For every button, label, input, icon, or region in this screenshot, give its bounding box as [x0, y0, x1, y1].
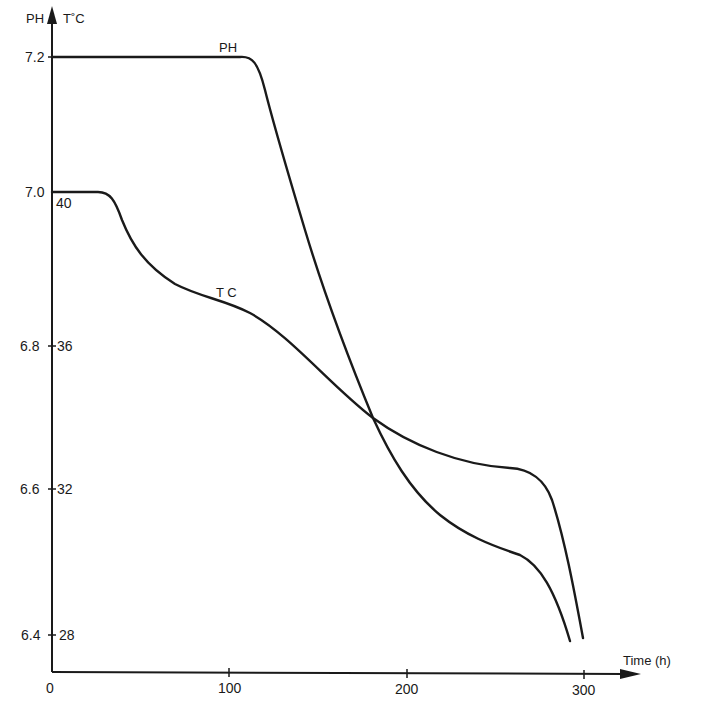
y-tick-temp-36: 36 — [57, 338, 73, 354]
x-tick-0: 0 — [46, 680, 54, 696]
y-tick-ph-6.6: 6.6 — [20, 481, 40, 497]
chart: PH T˚C Time (h) 7.2 7.0 40 6.8 36 6.6 32… — [0, 0, 705, 708]
temp-series-label: T C — [216, 285, 237, 300]
x-axis-arrow-icon — [620, 669, 641, 679]
ph-series-line — [52, 57, 570, 641]
y-axis-left-title: PH — [26, 11, 44, 26]
x-axis-title: Time (h) — [623, 653, 671, 668]
y-tick-ph-7.2: 7.2 — [25, 49, 45, 65]
x-tick-200: 200 — [395, 681, 419, 697]
y-tick-temp-40: 40 — [56, 195, 72, 211]
y-tick-ph-7.0: 7.0 — [25, 184, 45, 200]
x-axis — [52, 672, 625, 674]
ph-series-label: PH — [219, 40, 237, 55]
y-axis-right-title: T˚C — [63, 11, 85, 26]
y-tick-temp-28: 28 — [59, 627, 75, 643]
x-tick-100: 100 — [218, 680, 242, 696]
y-tick-temp-32: 32 — [57, 481, 73, 497]
temp-series-line — [52, 192, 583, 638]
y-axis-arrow-icon — [47, 6, 57, 24]
y-ticks: 7.2 7.0 40 6.8 36 6.6 32 6.4 28 — [20, 49, 75, 643]
y-tick-ph-6.8: 6.8 — [20, 338, 40, 354]
x-tick-300: 300 — [572, 682, 596, 698]
y-tick-ph-6.4: 6.4 — [21, 627, 41, 643]
